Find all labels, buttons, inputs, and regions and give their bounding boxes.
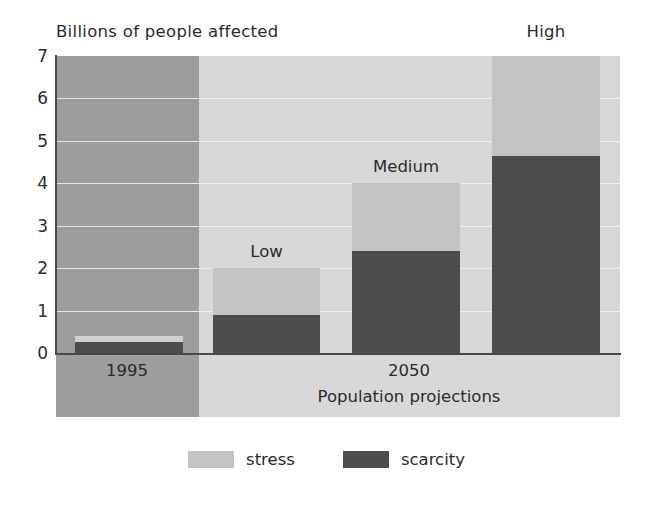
y-tick-0: 0 <box>14 343 48 363</box>
chart-title: Billions of people affected <box>56 22 279 41</box>
category-label-1995: 1995 <box>106 361 148 380</box>
plot-area: Low Medium <box>56 56 620 353</box>
y-tick-6: 6 <box>14 88 48 108</box>
bar-segment-scarcity <box>492 156 600 353</box>
y-axis-line <box>55 55 57 354</box>
series-label-low: Low <box>250 242 283 261</box>
x-axis-caption: Population projections <box>318 387 501 406</box>
series-label-medium: Medium <box>373 157 439 176</box>
legend-label-stress: stress <box>246 450 295 469</box>
bar-high[interactable] <box>492 56 600 353</box>
bar-1995[interactable] <box>75 336 183 353</box>
y-tick-1: 1 <box>14 301 48 321</box>
y-tick-4: 4 <box>14 173 48 193</box>
legend-swatch-stress-icon <box>188 451 234 468</box>
legend-swatch-scarcity-icon <box>343 451 389 468</box>
y-axis-tick-labels: 7 6 5 4 3 2 1 0 <box>0 0 48 505</box>
bar-low[interactable] <box>213 268 320 353</box>
legend-item-stress[interactable]: stress <box>188 450 295 469</box>
y-tick-3: 3 <box>14 216 48 236</box>
chart-figure: Billions of people affected High 7 6 5 4… <box>0 0 653 505</box>
legend: stress scarcity <box>0 450 653 469</box>
y-tick-2: 2 <box>14 258 48 278</box>
bar-segment-scarcity <box>352 251 460 353</box>
legend-label-scarcity: scarcity <box>401 450 465 469</box>
y-tick-7: 7 <box>14 46 48 66</box>
series-label-high: High <box>526 22 565 41</box>
category-label-2050: 2050 <box>388 361 430 380</box>
y-tick-5: 5 <box>14 131 48 151</box>
legend-item-scarcity[interactable]: scarcity <box>343 450 465 469</box>
background-band-1995 <box>56 56 199 353</box>
bar-segment-scarcity <box>75 342 183 353</box>
bar-medium[interactable] <box>352 183 460 353</box>
category-strip: 1995 2050 Population projections <box>56 355 620 417</box>
bar-segment-scarcity <box>213 315 320 353</box>
